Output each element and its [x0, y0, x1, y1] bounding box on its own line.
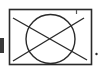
no-tumble-dry-icon — [0, 0, 102, 71]
trailing-dot — [95, 53, 97, 55]
